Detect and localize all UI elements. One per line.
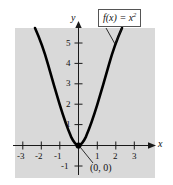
y-tick-label-2: 2 [66, 100, 71, 109]
x-tick-label-3: 3 [132, 152, 137, 161]
x-axis-arrow-icon [148, 142, 156, 148]
x-tick-label-neg1: -1 [54, 152, 62, 161]
vertex-leader-line [81, 148, 94, 164]
x-tick-label-1: 1 [95, 152, 100, 161]
x-axis-label: x [158, 139, 162, 149]
x-tick-label-neg3: -3 [17, 152, 25, 161]
y-tick-label-5: 5 [66, 39, 71, 48]
x-tick-label-neg2: -2 [35, 152, 43, 161]
y-axis-arrow-icon [75, 21, 81, 28]
y-tick-label-neg1: -1 [61, 162, 69, 171]
graph-figure: f(x) = x2 x y -3 -2 -1 1 2 3 5 4 3 2 1 -… [0, 0, 173, 185]
function-label-exponent: 2 [133, 11, 136, 18]
function-label-text: f(x) = x [103, 12, 133, 23]
y-tick-label-4: 4 [66, 59, 71, 68]
vertex-point-label: (0, 0) [90, 163, 112, 173]
x-tick-label-2: 2 [113, 152, 118, 161]
y-tick-label-1: 1 [66, 120, 71, 129]
function-label-callout: f(x) = x2 [98, 9, 141, 27]
graph-canvas [0, 0, 173, 185]
y-axis-label: y [71, 13, 75, 23]
y-tick-label-3: 3 [66, 79, 71, 88]
